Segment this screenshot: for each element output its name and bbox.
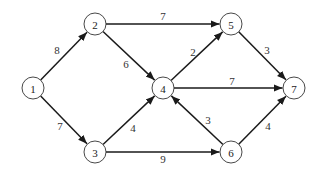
edge-arrow-line — [41, 32, 87, 80]
node-6: 6 — [220, 141, 242, 163]
edge-weight-label: 4 — [265, 120, 271, 132]
edge-weight-label: 7 — [229, 75, 235, 87]
edge-3-4: 4 — [103, 96, 155, 145]
node-label: 2 — [92, 19, 98, 31]
edge-4-5: 2 — [171, 32, 223, 81]
node-label: 1 — [30, 83, 36, 95]
edge-weight-label: 2 — [190, 46, 196, 58]
edge-2-4: 6 — [103, 32, 155, 81]
edge-arrow-line — [171, 96, 223, 145]
edge-arrow-line — [171, 32, 223, 81]
edge-arrow-line — [239, 96, 286, 144]
edge-arrow-line — [41, 96, 87, 144]
node-4: 4 — [152, 77, 174, 99]
edge-weight-label: 6 — [123, 58, 129, 70]
edge-weight-label: 7 — [160, 10, 166, 22]
node-label: 4 — [160, 83, 166, 95]
graph-diagram: 87764927334 1234567 — [0, 0, 320, 178]
node-label: 7 — [291, 83, 297, 95]
node-label: 6 — [228, 147, 234, 159]
node-2: 2 — [84, 13, 106, 35]
edge-arrow-line — [103, 96, 155, 145]
edge-4-7: 7 — [174, 75, 283, 88]
edge-weight-label: 3 — [205, 114, 211, 126]
edge-weight-label: 8 — [54, 44, 60, 56]
edge-arrow-line — [239, 32, 286, 80]
edge-weight-label: 4 — [130, 122, 136, 134]
edge-2-5: 7 — [106, 10, 220, 24]
edge-weight-label: 3 — [264, 44, 270, 56]
node-label: 5 — [228, 19, 234, 31]
node-5: 5 — [220, 13, 242, 35]
edge-3-6: 9 — [106, 152, 220, 165]
edge-5-7: 3 — [239, 32, 286, 80]
edge-weight-label: 7 — [57, 120, 63, 132]
edge-6-7: 4 — [239, 96, 286, 144]
edge-1-2: 8 — [41, 32, 87, 80]
node-1: 1 — [22, 77, 44, 99]
edge-1-3: 7 — [41, 96, 87, 144]
node-7: 7 — [283, 77, 305, 99]
edge-6-4: 3 — [171, 96, 223, 145]
edge-arrow-line — [103, 32, 155, 81]
node-3: 3 — [84, 141, 106, 163]
edge-weight-label: 9 — [160, 153, 166, 165]
node-label: 3 — [92, 147, 98, 159]
